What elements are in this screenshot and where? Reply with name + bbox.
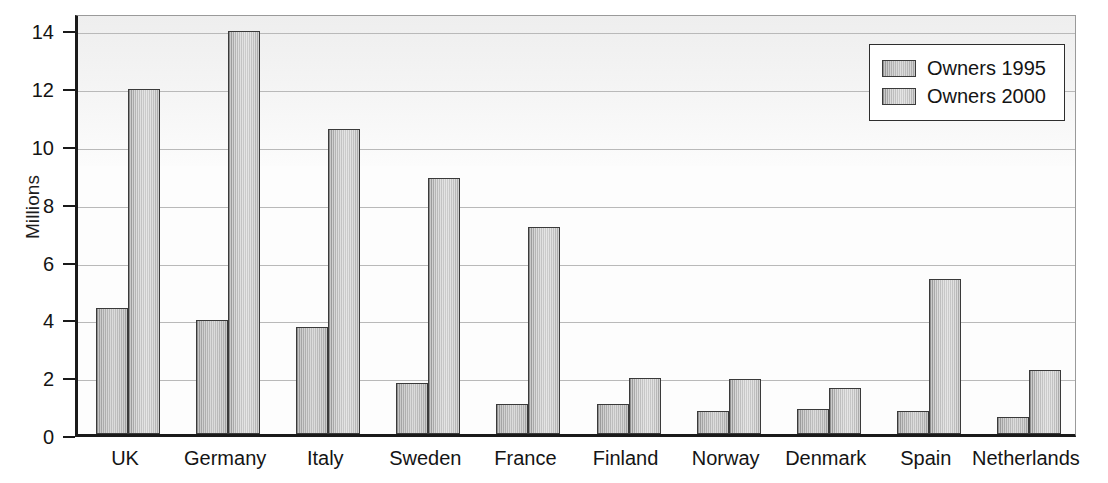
legend-item[interactable]: Owners 1995 <box>882 54 1052 82</box>
x-axis-tick-label: Italy <box>307 447 344 470</box>
y-axis-tick-label: 10 <box>8 136 54 159</box>
x-axis-tick-label: Netherlands <box>972 447 1080 470</box>
bar[interactable] <box>729 379 761 434</box>
x-axis-tick-label: Sweden <box>389 447 461 470</box>
x-axis-tick-label: France <box>494 447 556 470</box>
legend-swatch-owners-1995 <box>882 60 916 77</box>
x-axis-tick-label: Spain <box>900 447 951 470</box>
bar[interactable] <box>697 411 729 434</box>
y-axis-tick <box>63 436 75 438</box>
bar-chart: Millions 02468101214 UKGermanyItalySwede… <box>0 0 1108 483</box>
y-axis-tick <box>63 378 75 380</box>
x-axis-tick-label: UK <box>111 447 139 470</box>
bar[interactable] <box>428 178 460 434</box>
bar[interactable] <box>829 388 861 434</box>
bar[interactable] <box>328 129 360 434</box>
bar[interactable] <box>1029 370 1061 434</box>
legend-item[interactable]: Owners 2000 <box>882 82 1052 110</box>
bar[interactable] <box>128 89 160 434</box>
bar[interactable] <box>797 409 829 434</box>
y-axis-tick-label: 12 <box>8 79 54 102</box>
bar[interactable] <box>296 327 328 434</box>
bar[interactable] <box>629 378 661 434</box>
chart-title <box>0 0 1108 2</box>
x-axis-tick-label: Germany <box>184 447 266 470</box>
y-axis-tick <box>63 263 75 265</box>
y-axis-tick-label: 14 <box>8 21 54 44</box>
y-axis-tick-label: 2 <box>8 368 54 391</box>
y-axis-tick <box>63 89 75 91</box>
y-axis-tick-label: 6 <box>8 252 54 275</box>
bar[interactable] <box>528 227 560 434</box>
bar[interactable] <box>96 308 128 434</box>
y-axis-tick <box>63 147 75 149</box>
y-axis-tick-label: 4 <box>8 310 54 333</box>
bar[interactable] <box>597 404 629 434</box>
x-axis-tick-label: Denmark <box>785 447 866 470</box>
y-axis-tick <box>63 31 75 33</box>
legend-label-owners-2000: Owners 2000 <box>927 86 1046 106</box>
y-axis-tick <box>63 205 75 207</box>
bar[interactable] <box>897 411 929 434</box>
y-axis-tick-label: 0 <box>8 426 54 449</box>
bar[interactable] <box>228 31 260 434</box>
bar[interactable] <box>496 404 528 434</box>
bar[interactable] <box>997 417 1029 434</box>
legend-label-owners-1995: Owners 1995 <box>927 58 1046 78</box>
bar[interactable] <box>929 279 961 434</box>
legend-swatch-owners-2000 <box>882 88 916 105</box>
bar[interactable] <box>196 320 228 434</box>
y-axis-tick <box>63 320 75 322</box>
y-axis-tick-label: 8 <box>8 194 54 217</box>
x-axis-tick-label: Finland <box>593 447 659 470</box>
x-axis-tick-label: Norway <box>692 447 760 470</box>
legend: Owners 1995 Owners 2000 <box>869 44 1065 121</box>
bar[interactable] <box>396 383 428 434</box>
